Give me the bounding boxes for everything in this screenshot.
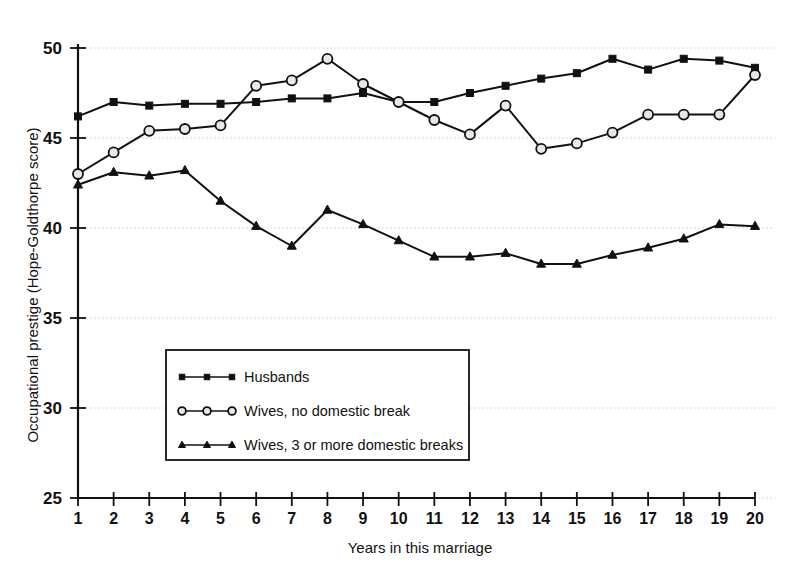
marker-open-circle [358, 79, 368, 89]
x-tick-label: 8 [323, 510, 332, 527]
marker-filled-square [217, 100, 224, 107]
x-tick-label: 6 [252, 510, 261, 527]
marker-filled-square [716, 57, 723, 64]
line-chart: 253035404550 123456789101112131415161718… [0, 0, 791, 587]
marker-filled-square [181, 100, 188, 107]
marker-open-circle [216, 120, 226, 130]
x-tick-label: 12 [461, 510, 479, 527]
marker-filled-square [573, 70, 580, 77]
legend-item-label: Wives, no domestic break [244, 403, 411, 419]
marker-open-circle [178, 407, 186, 415]
marker-open-circle [643, 110, 653, 120]
marker-open-circle [429, 115, 439, 125]
marker-filled-square [288, 95, 295, 102]
x-tick-label: 7 [287, 510, 296, 527]
marker-filled-square [645, 66, 652, 73]
x-tick-label: 16 [604, 510, 622, 527]
y-axis-title: Occupational prestige (Hope-Goldthorpe s… [24, 127, 41, 442]
marker-filled-square [253, 99, 260, 106]
marker-filled-square [204, 374, 209, 379]
y-tick-label: 35 [43, 309, 62, 328]
marker-filled-square [466, 90, 473, 97]
x-tick-label: 20 [746, 510, 764, 527]
x-tick-label: 2 [109, 510, 118, 527]
marker-open-circle [714, 110, 724, 120]
marker-filled-square [324, 95, 331, 102]
x-axis-title: Years in this marriage [348, 539, 493, 556]
x-tick-label: 10 [390, 510, 408, 527]
marker-open-circle [572, 138, 582, 148]
marker-filled-square [110, 99, 117, 106]
y-tick-label: 25 [43, 489, 62, 508]
marker-open-circle [180, 124, 190, 134]
marker-open-circle [322, 54, 332, 64]
marker-open-circle [228, 407, 236, 415]
marker-filled-square [75, 113, 82, 120]
x-tick-label: 1 [74, 510, 83, 527]
marker-open-circle [287, 75, 297, 85]
marker-open-circle [251, 81, 261, 91]
marker-filled-square [609, 55, 616, 62]
x-tick-label: 17 [639, 510, 657, 527]
marker-open-circle [465, 129, 475, 139]
y-tick-label: 40 [43, 219, 62, 238]
marker-open-circle [536, 144, 546, 154]
marker-open-circle [109, 147, 119, 157]
x-tick-label: 19 [710, 510, 728, 527]
y-tick-label: 50 [43, 39, 62, 58]
x-tick-label: 18 [675, 510, 693, 527]
x-tick-label: 4 [180, 510, 189, 527]
marker-filled-square [538, 75, 545, 82]
marker-filled-square [179, 374, 184, 379]
x-tick-label: 5 [216, 510, 225, 527]
marker-filled-square [431, 99, 438, 106]
marker-open-circle [679, 110, 689, 120]
legend-item-label: Husbands [244, 369, 309, 385]
marker-filled-square [360, 90, 367, 97]
marker-filled-square [229, 374, 234, 379]
marker-open-circle [501, 101, 511, 111]
chart-figure: 253035404550 123456789101112131415161718… [0, 0, 791, 587]
chart-legend: HusbandsWives, no domestic breakWives, 3… [166, 350, 469, 460]
marker-open-circle [607, 128, 617, 138]
x-tick-label: 15 [568, 510, 586, 527]
x-tick-label: 14 [532, 510, 550, 527]
y-tick-label: 30 [43, 399, 62, 418]
marker-filled-square [680, 55, 687, 62]
x-tick-label: 13 [497, 510, 515, 527]
marker-open-circle [144, 126, 154, 136]
x-tick-label: 3 [145, 510, 154, 527]
x-tick-label: 11 [426, 510, 443, 527]
marker-open-circle [203, 407, 211, 415]
marker-open-circle [750, 70, 760, 80]
marker-open-circle [394, 97, 404, 107]
y-tick-label: 45 [43, 129, 62, 148]
marker-filled-square [502, 82, 509, 89]
marker-open-circle [73, 169, 83, 179]
legend-item-label: Wives, 3 or more domestic breaks [244, 437, 463, 453]
x-tick-label: 9 [359, 510, 368, 527]
marker-filled-square [146, 102, 153, 109]
